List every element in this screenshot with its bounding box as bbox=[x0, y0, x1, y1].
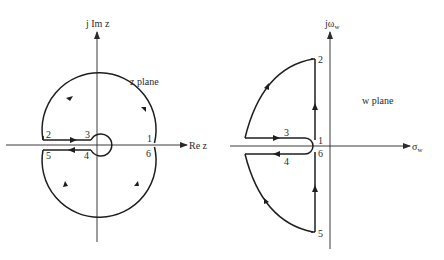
arrow-icon bbox=[66, 96, 73, 101]
w-plane-label: w plane bbox=[362, 95, 394, 106]
z-point-1: 1 bbox=[147, 133, 152, 144]
w-point-1: 1 bbox=[318, 135, 323, 146]
w-point-3: 3 bbox=[284, 127, 289, 138]
arrow-icon bbox=[312, 185, 318, 192]
z-point-4: 4 bbox=[84, 150, 89, 161]
arrow-icon bbox=[63, 181, 68, 187]
arrow-icon bbox=[134, 181, 139, 186]
w-real-axis-label: σw bbox=[412, 141, 423, 154]
arrow-icon bbox=[70, 137, 77, 143]
arrow-icon bbox=[141, 107, 146, 112]
arrow-icon bbox=[264, 83, 269, 90]
contour-mapping-diagram: j Im z Re z z plane 1 2 3 4 5 6 j bbox=[0, 0, 444, 260]
w-contour-arc-upper bbox=[245, 59, 313, 138]
w-point-2: 2 bbox=[318, 54, 323, 65]
arrow-icon bbox=[68, 147, 75, 153]
z-point-6: 6 bbox=[146, 148, 151, 159]
z-point-2: 2 bbox=[46, 129, 51, 140]
z-contour-outer-lower bbox=[42, 147, 156, 217]
w-point-4: 4 bbox=[284, 156, 289, 167]
w-plane-panel: jωw σw w plane 1 2 3 4 5 6 bbox=[230, 18, 423, 249]
w-imag-axis-label: jωw bbox=[324, 18, 340, 31]
z-imag-axis-label: j Im z bbox=[85, 18, 110, 29]
w-point-6: 6 bbox=[318, 148, 323, 159]
arrow-icon bbox=[273, 135, 280, 141]
z-plane-label: z plane bbox=[130, 76, 159, 87]
arrow-icon bbox=[273, 151, 280, 157]
w-point-5: 5 bbox=[318, 228, 323, 239]
z-real-axis-label: Re z bbox=[189, 140, 208, 151]
z-plane-panel: j Im z Re z z plane 1 2 3 4 5 6 bbox=[6, 18, 208, 242]
arrow-icon bbox=[312, 103, 318, 110]
z-point-5: 5 bbox=[46, 150, 51, 161]
w-contour-arc-lower bbox=[245, 154, 313, 232]
z-point-3: 3 bbox=[85, 129, 90, 140]
